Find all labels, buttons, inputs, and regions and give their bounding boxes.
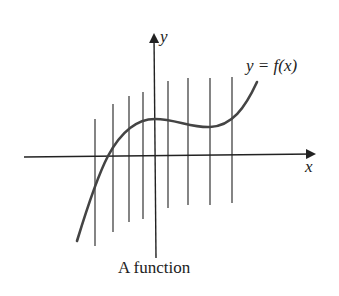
function-curve: [77, 82, 257, 241]
vertical-test-lines: [95, 77, 232, 246]
x-axis: [24, 154, 314, 157]
function-diagram: y x y = f(x) A function: [0, 0, 339, 296]
diagram-canvas: [0, 0, 339, 296]
curve-label: y = f(x): [246, 56, 297, 76]
y-axis-label: y: [160, 27, 168, 47]
x-axis-label: x: [305, 157, 313, 177]
y-axis: [154, 35, 156, 258]
figure-caption: A function: [118, 258, 190, 278]
